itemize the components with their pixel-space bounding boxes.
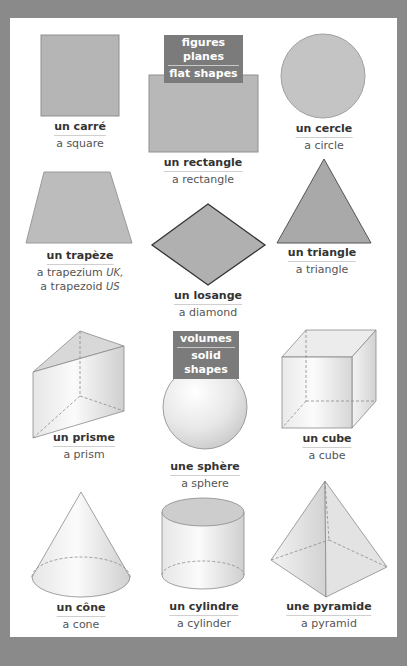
square-label-fr: un carré — [54, 120, 106, 136]
rectangle-shape — [149, 75, 258, 152]
diamond-label: un losange a diamond — [174, 289, 242, 320]
cube-label: un cube a cube — [302, 432, 351, 463]
cube-shape — [282, 330, 376, 428]
diamond-label-fr: un losange — [174, 289, 242, 305]
square-shape — [41, 35, 119, 116]
sphere-label-en: a sphere — [170, 477, 240, 491]
prism-label-en: a prism — [53, 448, 115, 462]
rectangle-label-en: a rectangle — [164, 173, 243, 187]
solid-shapes-heading-fr: volumes — [177, 332, 235, 348]
flat-shapes-heading: figures planes flat shapes — [164, 35, 243, 83]
circle-label: un cercle a circle — [296, 122, 353, 153]
cone-label-en: a cone — [57, 618, 106, 632]
square-label-en: a square — [54, 137, 106, 151]
sphere-label-fr: une sphère — [170, 460, 240, 476]
trapezium-label-fr: un trapèze — [47, 249, 114, 265]
cylinder-shape — [162, 498, 244, 589]
trapezium-shape — [26, 172, 132, 243]
triangle-shape — [277, 159, 371, 243]
cone-label: un cône a cone — [57, 601, 106, 632]
prism-label: un prisme a prism — [53, 431, 115, 462]
pyramid-label: une pyramide a pyramid — [286, 600, 371, 631]
triangle-label-fr: un triangle — [288, 246, 356, 262]
circle-label-fr: un cercle — [296, 122, 353, 138]
trapezium-label-en-us: a trapezoid US — [37, 280, 124, 294]
prism-label-fr: un prisme — [53, 431, 115, 447]
prism-shape — [33, 331, 124, 438]
cube-label-en: a cube — [302, 449, 351, 463]
circle-label-en: a circle — [296, 139, 353, 153]
cylinder-label: un cylindre a cylinder — [169, 600, 238, 631]
sphere-label: une sphère a sphere — [170, 460, 240, 491]
diamond-label-en: a diamond — [174, 306, 242, 320]
trapezium-label: un trapèze a trapezium UK, a trapezoid U… — [37, 249, 124, 294]
cone-label-fr: un cône — [57, 601, 106, 617]
triangle-label: un triangle a triangle — [288, 246, 356, 277]
flat-shapes-heading-fr: figures planes — [168, 36, 239, 66]
square-label: un carré a square — [54, 120, 106, 151]
cylinder-label-fr: un cylindre — [169, 600, 238, 616]
rectangle-label-fr: un rectangle — [164, 156, 243, 172]
cube-label-fr: un cube — [302, 432, 351, 448]
circle-shape — [281, 34, 365, 118]
solid-shapes-heading: volumes solid shapes — [173, 331, 239, 379]
triangle-label-en: a triangle — [288, 263, 356, 277]
cone-shape — [32, 492, 130, 597]
pyramid-label-en: a pyramid — [286, 617, 371, 631]
flat-shapes-heading-en: flat shapes — [168, 67, 239, 81]
trapezium-label-en-uk: a trapezium UK, — [37, 266, 124, 280]
pyramid-label-fr: une pyramide — [286, 600, 371, 616]
diamond-shape — [152, 204, 265, 285]
rectangle-label: un rectangle a rectangle — [164, 156, 243, 187]
cylinder-label-en: a cylinder — [169, 617, 238, 631]
pyramid-shape — [271, 481, 387, 597]
solid-shapes-heading-en: solid shapes — [177, 349, 235, 377]
